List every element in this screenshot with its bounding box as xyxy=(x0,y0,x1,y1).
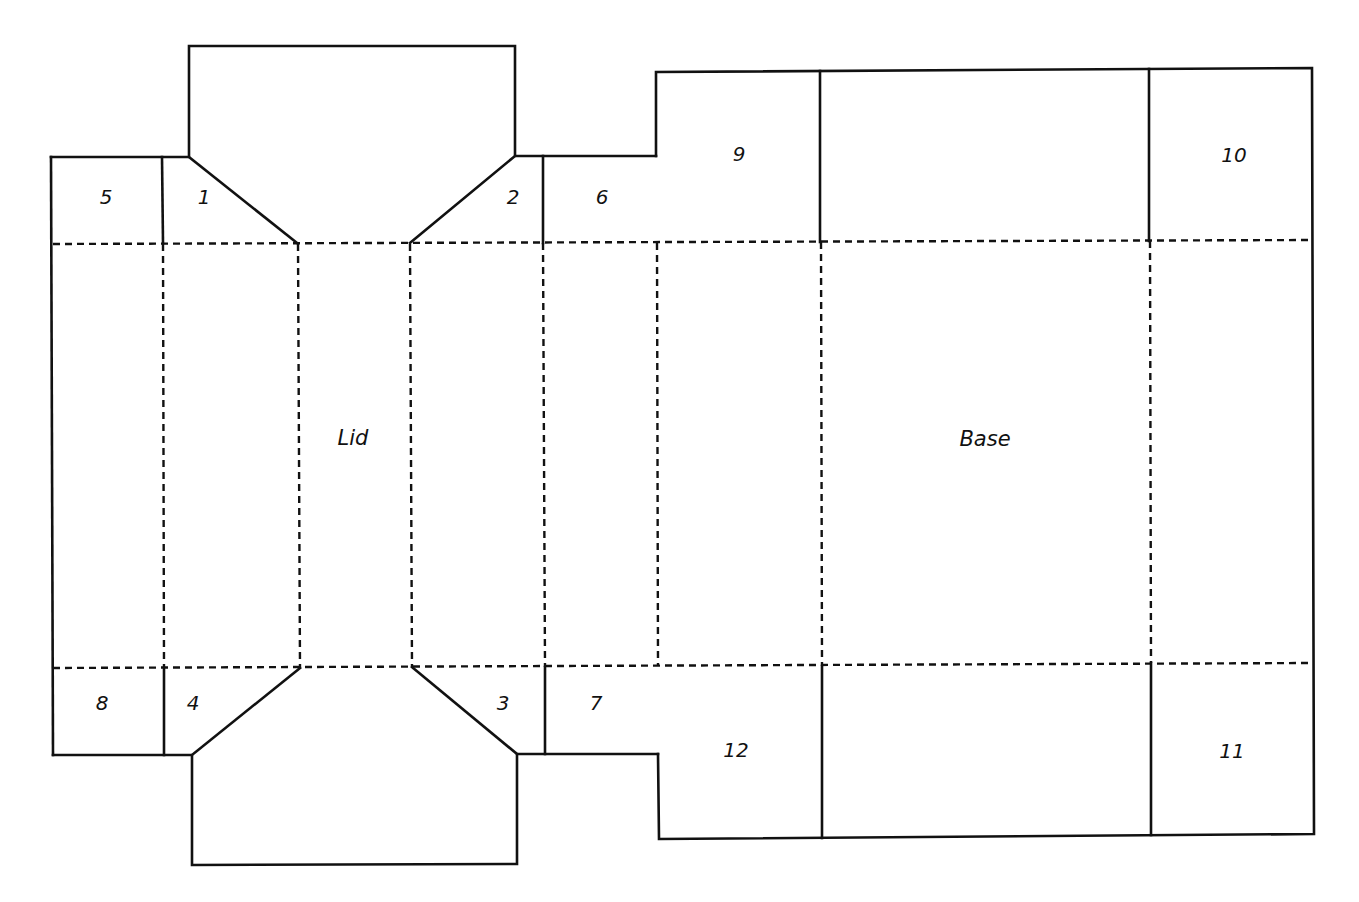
lid-fold-v1 xyxy=(163,244,164,668)
flap-label-2: 2 xyxy=(507,185,520,209)
flap-label-8: 8 xyxy=(96,691,109,715)
flap-label-3: 3 xyxy=(497,691,510,715)
labels: 5 1 2 6 8 4 3 7 9 10 11 12 Lid Base xyxy=(96,142,1247,763)
flap-label-10: 10 xyxy=(1221,143,1246,167)
lid-section xyxy=(51,46,1313,865)
lid-left-edge xyxy=(51,157,53,755)
lid-fold-v2 xyxy=(298,244,300,668)
lid-bottom-left-diagonal xyxy=(192,668,300,755)
flap-label-5: 5 xyxy=(100,185,113,209)
base-fold-v1 xyxy=(657,243,658,666)
base-label: Base xyxy=(959,427,1010,451)
base-fold-v3 xyxy=(1150,241,1151,663)
flap-label-6: 6 xyxy=(596,185,609,209)
flap-label-1: 1 xyxy=(198,185,211,209)
flap-label-7: 7 xyxy=(590,691,603,715)
bottom-fold-line xyxy=(53,663,1313,668)
flap-label-4: 4 xyxy=(187,691,200,715)
flap-label-9: 9 xyxy=(733,142,746,166)
box-net-diagram: 5 1 2 6 8 4 3 7 9 10 11 12 Lid Base xyxy=(0,0,1359,902)
lid-top-right-diagonal xyxy=(410,156,515,243)
lid-outline-cut xyxy=(51,46,658,865)
base-fold-v2 xyxy=(821,242,822,666)
divider-5-1 xyxy=(162,157,163,243)
base-section xyxy=(656,68,1314,839)
lid-fold-v4 xyxy=(543,243,545,667)
flap-label-11: 11 xyxy=(1219,739,1244,763)
lid-fold-v3 xyxy=(410,244,412,667)
lid-label: Lid xyxy=(338,426,370,450)
base-outline-cut xyxy=(656,68,1314,839)
top-fold-line xyxy=(53,240,1313,244)
flap-label-12: 12 xyxy=(723,738,748,762)
